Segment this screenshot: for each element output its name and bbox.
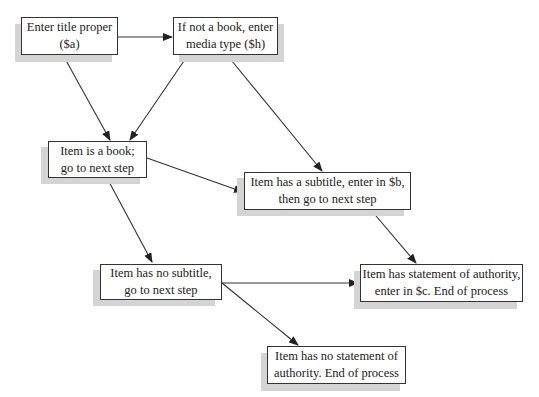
node-text-line: If not a book, enter (178, 19, 273, 36)
node-has-statement-of-authority: Item has statement of authority, enter i… (360, 264, 523, 302)
arrow-n1-to-n3 (63, 55, 110, 140)
node-item-is-book: Item is a book; go to next step (48, 141, 147, 178)
node-enter-media-type: If not a book, enter media type ($h) (173, 17, 278, 55)
node-enter-title-proper: Enter title proper ($a) (21, 17, 118, 55)
node-text-line: Item has no statement of (274, 348, 399, 365)
node-no-statement-of-authority: Item has no statement of authority. End … (267, 346, 406, 384)
node-text-line: authority. End of process (274, 365, 399, 382)
node-text-line: Item has statement of authority, (363, 266, 521, 283)
node-text-line: Item has no subtitle, (110, 265, 211, 282)
node-text-line: Item is a book; (60, 143, 135, 160)
node-no-subtitle: Item has no subtitle, go to next step (100, 264, 222, 300)
node-text-line: Item has a subtitle, enter in $b, (250, 174, 404, 191)
arrow-n2-to-n3 (130, 55, 188, 140)
arrow-n4-to-n6 (371, 210, 416, 263)
arrow-n5-to-n7 (222, 283, 298, 345)
arrow-n2-to-n4 (227, 55, 322, 171)
node-text-line: Enter title proper (27, 19, 112, 36)
node-text-line: then go to next step (250, 191, 404, 208)
node-text-line: go to next step (60, 160, 135, 177)
arrow-n3-to-n4 (147, 158, 243, 192)
node-text-line: ($a) (27, 36, 112, 53)
node-text-line: go to next step (110, 282, 211, 299)
arrow-n3-to-n5 (107, 178, 152, 262)
node-text-line: media type ($h) (178, 36, 273, 53)
node-has-subtitle: Item has a subtitle, enter in $b, then g… (244, 172, 411, 210)
node-text-line: enter in $c. End of process (363, 283, 521, 300)
